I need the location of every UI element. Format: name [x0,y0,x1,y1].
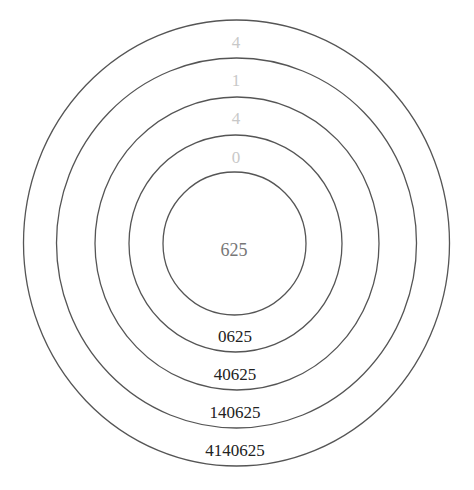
bottom-label-4: 4140625 [205,441,265,460]
top-digit-3: 4 [232,109,241,128]
bottom-label-1: 0625 [218,327,252,346]
top-digit-2: 1 [232,71,241,90]
concentric-rings-diagram: 4 1 4 0 625 0625 40625 140625 4140625 [0,0,474,490]
bottom-label-3: 140625 [210,403,261,422]
top-digit-1: 4 [232,33,241,52]
top-digit-4: 0 [232,148,241,167]
bottom-label-2: 40625 [214,365,257,384]
center-label: 625 [221,240,248,260]
